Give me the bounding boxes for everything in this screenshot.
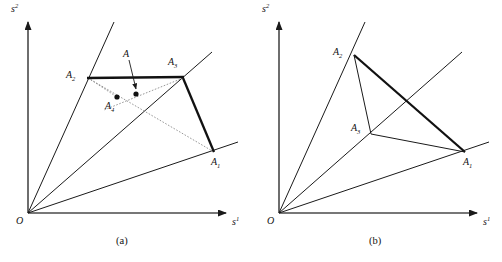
panel-b-y-axis-label: s2 <box>262 3 269 14</box>
panel-b-label-A2: A2 <box>333 47 342 60</box>
panel-a-x-axis-label: s1 <box>232 216 239 227</box>
panel-a-label-A: A <box>123 49 129 59</box>
panel-a-label-A3: A3 <box>168 57 177 70</box>
panel-a-segment-a3-a1 <box>183 78 214 152</box>
panel-b-label-A3: A3 <box>351 123 360 136</box>
panel-a-segment-a2-a3 <box>87 77 184 78</box>
panel-b-x-axis-label: s1 <box>483 216 490 227</box>
panel-b-caption: (b) <box>369 236 381 247</box>
panel-a-label-A4: A4 <box>105 101 114 114</box>
panel-a-label-A2: A2 <box>66 70 75 83</box>
panel-a-dotted-a2-a4 <box>88 78 117 97</box>
panel-a-ray-through-a1 <box>28 142 238 213</box>
panel-b-ray-through-a1 <box>279 142 489 213</box>
panel-b-group <box>279 22 489 213</box>
panel-a-origin-label: O <box>16 216 23 226</box>
panel-a-label-A1: A1 <box>211 157 220 170</box>
panel-a-caption: (a) <box>116 236 128 247</box>
figure-root: s2 s1 O A2 A3 A1 A4 A s2 s1 O A2 A3 A1 (… <box>0 0 502 262</box>
panel-a-dotted-a2-a1 <box>88 78 214 152</box>
panel-a-point-A-marker <box>133 91 138 96</box>
panel-b-segment-a2-a1 <box>354 55 465 152</box>
panel-a-ray-through-a2 <box>28 22 114 213</box>
panel-b-ray-through-a2 <box>279 22 365 213</box>
panel-a-group <box>28 22 238 213</box>
panel-a-ray-through-a3 <box>28 52 212 213</box>
panel-a-point-A4-marker <box>114 94 119 99</box>
figure-svg <box>0 0 502 262</box>
panel-b-origin-label: O <box>267 216 274 226</box>
panel-a-y-axis-label: s2 <box>11 3 18 14</box>
panel-b-label-A1: A1 <box>463 157 472 170</box>
panel-a-annotation-arrow <box>129 60 136 89</box>
panel-b-segment-a3-a1 <box>371 134 465 152</box>
